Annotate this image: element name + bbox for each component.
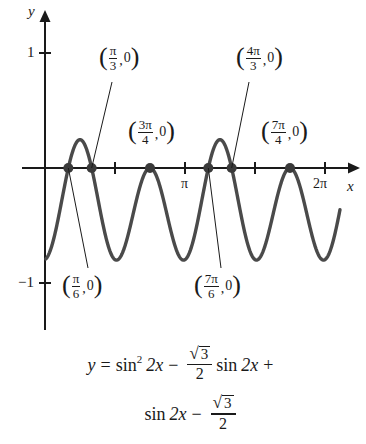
fraction-denominator: 6: [72, 287, 81, 301]
paren-close: ): [166, 121, 175, 142]
function-plot-svg: [0, 0, 366, 340]
term1-function: sin: [116, 356, 137, 374]
annotation-7pi-over-6: ( 7π 6 , 0 ): [194, 272, 241, 300]
x-axis-arrowhead: [348, 163, 360, 174]
equation-line-2: sin 2x − √3 2: [126, 395, 239, 432]
comma: ,: [119, 54, 123, 68]
term3-function: sin: [144, 405, 165, 423]
paren-close: ): [274, 47, 283, 68]
plus-sign: +: [263, 356, 273, 374]
equation-lhs: y: [88, 356, 96, 374]
fraction-denominator: 4: [141, 133, 150, 147]
fraction-denominator: 2: [217, 415, 229, 432]
annotation-pi-over-3: ( π 3 , 0 ): [99, 44, 139, 72]
comma: ,: [155, 128, 159, 142]
leader-lines-group: [68, 82, 249, 268]
annotation-4pi-over-3: ( 4π 3 , 0 ): [236, 44, 283, 72]
square-root-symbol: √3: [189, 345, 210, 363]
fraction-sqrt3-over-2-second: √3 2: [211, 394, 236, 431]
fraction-numerator: 4π: [246, 44, 261, 58]
paren-close: ): [131, 47, 140, 68]
y-value: 0: [225, 279, 232, 293]
paren-open: (: [62, 275, 71, 296]
annotation-pi-over-6: ( π 6 , 0 ): [62, 272, 102, 300]
annotation-7pi-over-4: ( 7π 4 , 0 ): [261, 118, 308, 146]
y-value: 0: [87, 279, 94, 293]
square-root-symbol: √3: [213, 394, 234, 412]
marked-point: [145, 163, 155, 173]
fraction-3pi-4: 3π 4: [138, 118, 153, 146]
term1-exponent: 2: [137, 354, 143, 365]
paren-open: (: [261, 121, 270, 142]
equation-line-1: y = sin2 2x − √3 2 sin 2x +: [88, 346, 279, 383]
y-value: 0: [159, 125, 166, 139]
minus-sign-1: −: [168, 356, 178, 374]
equals-sign: =: [101, 356, 111, 374]
y-tick-label-1: 1: [27, 45, 35, 60]
x-tick-label-2pi: 2π: [313, 177, 327, 191]
comma: ,: [288, 128, 292, 142]
fraction-denominator: 3: [249, 59, 258, 73]
minus-sign-2: −: [192, 405, 202, 423]
graph-figure: y x 1 −1 π 2π ( π 3 , 0 ) ( 4π 3 , 0 ) (…: [0, 0, 366, 340]
annotation-leader-line: [92, 82, 112, 168]
paren-close: ): [232, 275, 241, 296]
y-axis-label: y: [28, 4, 35, 19]
fraction-7pi-6: 7π 6: [204, 272, 219, 300]
paren-open: (: [128, 121, 137, 142]
fraction-numerator: 7π: [271, 118, 286, 132]
fraction-numerator: π: [109, 44, 118, 58]
x-axis-label: x: [347, 179, 354, 194]
term2-function: sin: [216, 356, 237, 374]
fraction-denominator: 3: [109, 59, 118, 73]
equation-block: y = sin2 2x − √3 2 sin 2x + sin 2x − √3 …: [0, 336, 366, 444]
y-value: 0: [124, 51, 131, 65]
y-value: 0: [267, 51, 274, 65]
term3-argument: 2x: [170, 405, 187, 423]
fraction-4pi-3: 4π 3: [246, 44, 261, 72]
annotation-leader-line: [68, 168, 88, 268]
radicand: 3: [222, 395, 234, 412]
annotation-leader-line: [232, 82, 249, 168]
fraction-numerator: 7π: [204, 272, 219, 286]
paren-close: ): [94, 275, 103, 296]
fraction-sqrt3-over-2-first: √3 2: [187, 345, 212, 382]
term2-argument: 2x: [241, 356, 258, 374]
paren-open: (: [99, 47, 108, 68]
paren-close: ): [299, 121, 308, 142]
comma: ,: [263, 54, 267, 68]
y-tick-label-neg1: −1: [18, 275, 34, 290]
annotation-leader-line: [208, 168, 221, 268]
radical-sign: √: [189, 345, 198, 362]
fraction-denominator: 2: [194, 365, 206, 382]
fraction-numerator: √3: [211, 394, 236, 413]
marked-point: [285, 163, 295, 173]
annotation-3pi-over-4: ( 3π 4 , 0 ): [128, 118, 175, 146]
fraction-numerator: π: [72, 272, 81, 286]
fraction-7pi-4: 7π 4: [271, 118, 286, 146]
comma: ,: [221, 282, 225, 296]
paren-open: (: [236, 47, 245, 68]
term1-argument: 2x: [146, 356, 163, 374]
y-axis-arrowhead: [40, 10, 51, 22]
y-value: 0: [292, 125, 299, 139]
fraction-numerator: 3π: [138, 118, 153, 132]
fraction-denominator: 6: [207, 287, 216, 301]
paren-open: (: [194, 275, 203, 296]
radicand: 3: [199, 346, 211, 363]
comma: ,: [82, 282, 86, 296]
fraction-denominator: 4: [274, 133, 283, 147]
fraction-numerator: √3: [187, 345, 212, 364]
function-curve: [46, 140, 340, 260]
fraction-pi-3: π 3: [109, 44, 118, 72]
fraction-pi-6: π 6: [72, 272, 81, 300]
radical-sign: √: [213, 394, 222, 411]
x-tick-label-pi: π: [181, 177, 188, 191]
